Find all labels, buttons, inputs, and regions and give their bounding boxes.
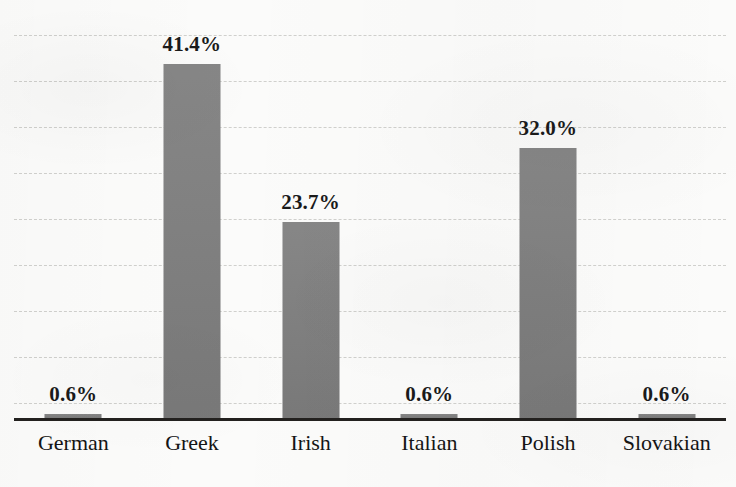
category-label-greek: Greek [133,426,252,466]
category-label-italian: Italian [370,426,489,466]
bar-irish[interactable] [282,222,339,419]
bar-value-italian: 0.6% [405,382,453,407]
x-axis-category-labels: German Greek Irish Italian Polish Slovak… [14,426,726,466]
category-label-irish: Irish [251,426,370,466]
bar-slot-irish: 23.7% [251,26,370,419]
bar-greek[interactable] [163,64,220,419]
bars-layer: 0.6% 41.4% 23.7% 0.6% 32.0% 0.6% [14,26,726,419]
category-label-polish: Polish [489,426,608,466]
bar-value-irish: 23.7% [281,190,340,215]
bar-value-polish: 32.0% [519,116,578,141]
category-label-slovakian: Slovakian [607,426,726,466]
bar-slot-slovakian: 0.6% [607,26,726,419]
bar-slot-polish: 32.0% [489,26,608,419]
bar-chart: 0.6% 41.4% 23.7% 0.6% 32.0% 0.6% German … [0,0,736,487]
bar-polish[interactable] [519,148,576,419]
category-label-german: German [14,426,133,466]
bar-value-slovakian: 0.6% [643,382,691,407]
bar-slot-greek: 41.4% [133,26,252,419]
bar-slot-italian: 0.6% [370,26,489,419]
bar-value-german: 0.6% [49,382,97,407]
x-axis-line [14,418,726,421]
bar-slot-german: 0.6% [14,26,133,419]
bar-value-greek: 41.4% [163,32,222,57]
